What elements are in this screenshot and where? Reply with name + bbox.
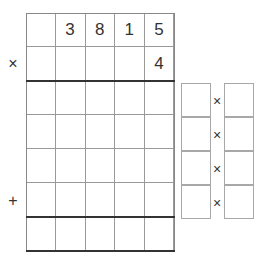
digit-cell[interactable] [56, 47, 86, 81]
side-factor-right-cell[interactable] [224, 83, 254, 117]
digit-cell[interactable] [144, 217, 174, 251]
digit-cell[interactable] [144, 81, 174, 115]
digit-cell[interactable] [85, 47, 115, 81]
digit-cell[interactable]: 5 [144, 13, 174, 47]
digit-cell[interactable]: 1 [115, 13, 145, 47]
digit-cell[interactable] [115, 115, 145, 149]
side-factor-right-cell[interactable] [224, 117, 254, 151]
digit-cell[interactable] [56, 115, 86, 149]
digit-cell[interactable] [85, 183, 115, 217]
digit-cell[interactable]: 3 [56, 13, 86, 47]
multiplication-sign: × [6, 55, 20, 73]
digit-cell[interactable]: 4 [144, 47, 174, 81]
digit-cell[interactable] [56, 81, 86, 115]
digit-cell[interactable] [115, 81, 145, 115]
digit-cell[interactable] [56, 217, 86, 251]
digit-cell[interactable] [144, 183, 174, 217]
digit-cell[interactable]: 8 [85, 13, 115, 47]
side-factor-left-cell[interactable] [181, 83, 211, 117]
digit-cell[interactable] [144, 115, 174, 149]
side-factor-left-cell[interactable] [181, 151, 211, 185]
times-icon: × [211, 195, 223, 211]
digit-cell[interactable] [85, 115, 115, 149]
side-factor-left-cell[interactable] [181, 185, 211, 219]
sum-line [26, 250, 175, 252]
digit-cell[interactable] [26, 217, 56, 251]
digit-cell[interactable] [56, 149, 86, 183]
digit-cell[interactable] [26, 149, 56, 183]
digit-cell[interactable] [115, 149, 145, 183]
digit-cell[interactable] [85, 149, 115, 183]
digit-cell[interactable] [115, 217, 145, 251]
side-factor-left-cell[interactable] [181, 117, 211, 151]
digit-cell[interactable] [26, 47, 56, 81]
digit-cell[interactable] [115, 47, 145, 81]
digit-cell[interactable] [85, 81, 115, 115]
sum-line [26, 216, 175, 218]
digit-cell[interactable] [56, 183, 86, 217]
times-icon: × [211, 161, 223, 177]
addition-sign: + [6, 192, 20, 210]
sum-line [26, 80, 175, 82]
digit-cell[interactable] [26, 81, 56, 115]
digit-cell[interactable] [26, 183, 56, 217]
side-factor-right-cell[interactable] [224, 151, 254, 185]
times-icon: × [211, 93, 223, 109]
times-icon: × [211, 127, 223, 143]
digit-cell[interactable] [115, 183, 145, 217]
digit-cell[interactable] [26, 115, 56, 149]
side-factor-right-cell[interactable] [224, 185, 254, 219]
digit-cell[interactable] [85, 217, 115, 251]
digit-cell[interactable] [26, 13, 56, 47]
digit-cell[interactable] [144, 149, 174, 183]
